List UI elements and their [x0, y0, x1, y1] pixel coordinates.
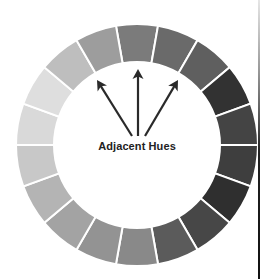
arrow-left-shaft	[100, 85, 132, 136]
color-wheel-diagram: Adjacent Hues	[0, 0, 263, 279]
arrow-right-shaft	[145, 85, 175, 136]
adjacent-hues-label: Adjacent Hues	[87, 140, 187, 152]
adjacent-arrows	[97, 69, 178, 136]
page-edge-divider	[258, 0, 260, 279]
